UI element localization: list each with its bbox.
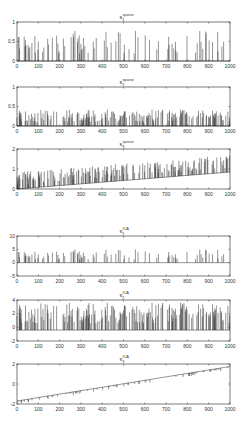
x-tick-label: 0: [16, 128, 19, 134]
x-tick-label: 1000: [224, 406, 235, 412]
y-tick-label: 0: [12, 186, 15, 192]
subplot-2: 0100200300400500600700800900100000.51s2s…: [8, 78, 236, 134]
x-tick-label: 900: [205, 191, 214, 197]
x-tick-label: 600: [141, 191, 150, 197]
x-tick-label: 200: [55, 406, 64, 412]
x-tick-label: 800: [183, 343, 192, 349]
x-tick-label: 800: [183, 278, 192, 284]
x-tick-label: 600: [141, 343, 150, 349]
x-tick-label: 300: [77, 278, 86, 284]
series-line: [17, 156, 230, 189]
x-tick-label: 1000: [224, 63, 235, 69]
x-tick-label: 400: [98, 191, 107, 197]
x-tick-label: 700: [162, 278, 171, 284]
y-tick-label: 1: [12, 19, 15, 25]
x-tick-label: 900: [205, 63, 214, 69]
y-tick-label: 0.5: [8, 38, 15, 44]
x-tick-label: 200: [55, 191, 64, 197]
x-tick-label: 400: [98, 278, 107, 284]
figure-canvas: 0100200300400500600700800900100000.51s1s…: [0, 0, 248, 421]
subplot-3: 01002003004005006007008009001000012s3spa…: [12, 140, 236, 197]
y-tick-label: 0: [12, 58, 15, 64]
x-tick-label: 200: [55, 278, 64, 284]
x-tick-label: 200: [55, 128, 64, 134]
x-tick-label: 700: [162, 191, 171, 197]
x-tick-label: 200: [55, 63, 64, 69]
x-tick-label: 300: [77, 191, 86, 197]
y-tick-label: -2: [11, 401, 16, 407]
x-tick-label: 200: [55, 343, 64, 349]
subplot-title: s1sparse: [120, 13, 134, 22]
y-tick-label: -2: [11, 338, 16, 344]
x-tick-label: 300: [77, 128, 86, 134]
axes-box: [17, 22, 230, 61]
x-tick-label: 500: [119, 191, 128, 197]
series-line: [17, 249, 230, 262]
x-tick-label: 900: [205, 278, 214, 284]
x-tick-label: 700: [162, 343, 171, 349]
x-tick-label: 1000: [224, 128, 235, 134]
x-tick-label: 400: [98, 63, 107, 69]
x-tick-label: 500: [119, 128, 128, 134]
x-tick-label: 300: [77, 406, 86, 412]
x-tick-label: 0: [16, 191, 19, 197]
y-tick-label: 0: [12, 259, 15, 265]
x-tick-label: 100: [34, 128, 43, 134]
subplot-6: 01002003004005006007008009001000-202s3IC…: [11, 355, 236, 412]
x-tick-label: 100: [34, 63, 43, 69]
x-tick-label: 700: [162, 406, 171, 412]
subplot-title: s3sparse: [120, 140, 134, 149]
x-tick-label: 500: [119, 406, 128, 412]
subplot-4: 01002003004005006007008009001000-50510s1…: [9, 227, 235, 284]
x-tick-label: 700: [162, 63, 171, 69]
x-tick-label: 600: [141, 406, 150, 412]
x-tick-label: 300: [77, 63, 86, 69]
x-tick-label: 0: [16, 406, 19, 412]
y-tick-label: 2: [12, 361, 15, 367]
axes-box: [17, 236, 230, 276]
x-tick-label: 100: [34, 278, 43, 284]
x-tick-label: 0: [16, 63, 19, 69]
x-tick-label: 500: [119, 343, 128, 349]
x-tick-label: 500: [119, 63, 128, 69]
x-tick-label: 800: [183, 191, 192, 197]
x-tick-label: 800: [183, 406, 192, 412]
subplots: 0100200300400500600700800900100000.51s1s…: [8, 13, 236, 412]
x-tick-label: 900: [205, 406, 214, 412]
y-tick-label: 5: [12, 246, 15, 252]
x-tick-label: 0: [16, 343, 19, 349]
x-tick-label: 400: [98, 343, 107, 349]
x-tick-label: 800: [183, 63, 192, 69]
series-line: [17, 31, 230, 61]
x-tick-label: 400: [98, 128, 107, 134]
x-tick-label: 600: [141, 63, 150, 69]
subplot-1: 0100200300400500600700800900100000.51s1s…: [8, 13, 236, 69]
x-tick-label: 700: [162, 128, 171, 134]
y-tick-label: 0: [12, 123, 15, 129]
y-tick-label: 2: [12, 146, 15, 152]
y-tick-label: 0: [12, 381, 15, 387]
x-tick-label: 500: [119, 278, 128, 284]
y-tick-label: 4: [12, 297, 15, 303]
subplot-title: s1ICA: [120, 227, 130, 236]
x-tick-label: 800: [183, 128, 192, 134]
y-tick-label: 0: [12, 324, 15, 330]
x-tick-label: 600: [141, 278, 150, 284]
y-tick-label: -5: [11, 273, 16, 279]
x-tick-label: 1000: [224, 191, 235, 197]
y-tick-label: 10: [9, 233, 15, 239]
subplot-title: s2ICA: [120, 291, 130, 300]
x-tick-label: 0: [16, 278, 19, 284]
axes-box: [17, 149, 230, 189]
y-tick-label: 1: [12, 84, 15, 90]
subplot-title: s3ICA: [120, 355, 130, 364]
x-tick-label: 1000: [224, 278, 235, 284]
x-tick-label: 900: [205, 343, 214, 349]
x-tick-label: 100: [34, 406, 43, 412]
x-tick-label: 600: [141, 128, 150, 134]
x-tick-label: 900: [205, 128, 214, 134]
x-tick-label: 300: [77, 343, 86, 349]
series-line: [17, 367, 230, 404]
subplot-5: 01002003004005006007008009001000-2024s2I…: [11, 291, 236, 349]
x-tick-label: 100: [34, 343, 43, 349]
